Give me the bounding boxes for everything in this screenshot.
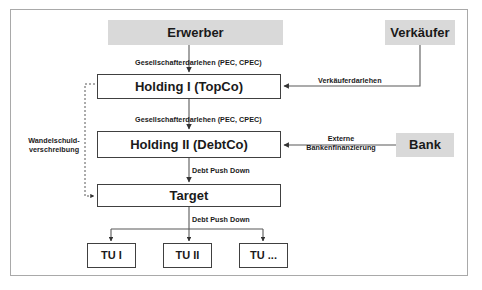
edge-label-wandelschuld-line2: verschreibung xyxy=(25,145,83,154)
node-tu3-label: TU ... xyxy=(250,250,277,262)
edge-label-gesellschafterdarlehen-1: Gesellschafterdarlehen (PEC, CPEC) xyxy=(135,58,262,67)
edge-label-verkauferdarlehen: Verkäuferdarlehen xyxy=(318,76,382,85)
node-tu2: TU II xyxy=(163,243,212,268)
node-holding2: Holding II (DebtCo) xyxy=(97,131,281,158)
edge-label-wandelschuldverschreibung: Wandelschuld- verschreibung xyxy=(25,136,83,154)
node-bank-label: Bank xyxy=(409,138,441,152)
diagram-canvas: Erwerber Verkäufer Holding I (TopCo) Hol… xyxy=(0,0,482,290)
node-holding2-label: Holding II (DebtCo) xyxy=(130,138,248,152)
node-tu1: TU I xyxy=(87,243,136,268)
node-tu3: TU ... xyxy=(239,243,288,268)
node-tu2-label: TU II xyxy=(176,250,200,262)
node-erwerber: Erwerber xyxy=(108,20,283,45)
node-verkaufer-label: Verkäufer xyxy=(390,26,449,40)
edge-label-debt-push-down-2: Debt Push Down xyxy=(192,215,250,224)
node-verkaufer: Verkäufer xyxy=(385,20,455,45)
edge-label-externe-line2: Bankenfinanzierung xyxy=(292,143,390,152)
node-holding1: Holding I (TopCo) xyxy=(97,74,281,99)
edge-label-externe-bankenfinanzierung: Externe Bankenfinanzierung xyxy=(292,134,390,152)
node-holding1-label: Holding I (TopCo) xyxy=(135,80,243,94)
edge-label-gesellschafterdarlehen-2: Gesellschafterdarlehen (PEC, CPEC) xyxy=(135,115,262,124)
edge-label-wandelschuld-line1: Wandelschuld- xyxy=(25,136,83,145)
node-tu1-label: TU I xyxy=(101,250,122,262)
node-target: Target xyxy=(97,184,281,207)
node-target-label: Target xyxy=(170,189,209,203)
edge-label-debt-push-down-1: Debt Push Down xyxy=(192,166,250,175)
node-erwerber-label: Erwerber xyxy=(167,26,223,40)
node-bank: Bank xyxy=(396,133,454,157)
edge-label-externe-line1: Externe xyxy=(292,134,390,143)
